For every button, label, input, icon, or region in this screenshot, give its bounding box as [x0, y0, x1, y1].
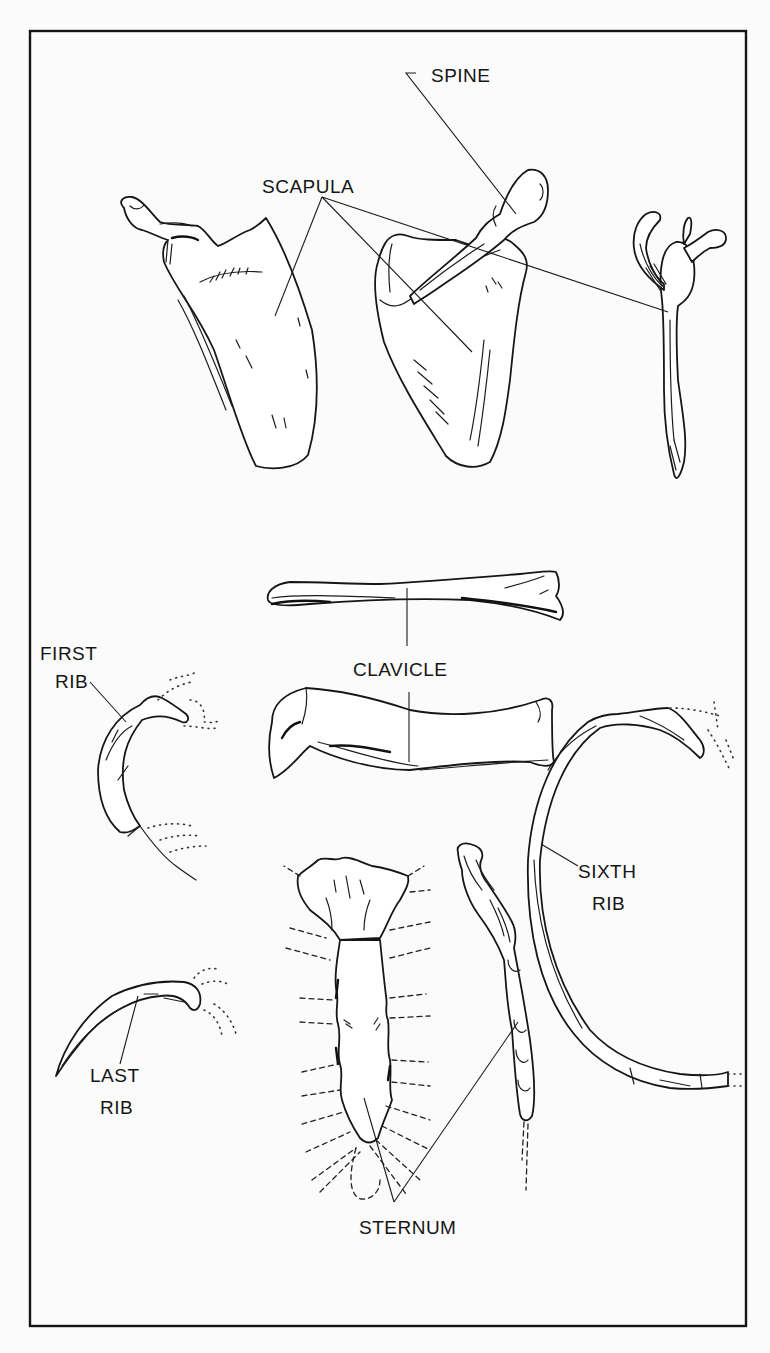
skeletal-anatomy-figure: SPINE SCAPULA CLAVICLE — [0, 0, 770, 1353]
sixth-rib-leader-line — [541, 844, 578, 866]
first-rib-label-group: FIRST RIB — [40, 643, 126, 722]
sternum-leader-line-lateral — [394, 1022, 518, 1202]
spine-leader-line — [406, 73, 516, 214]
scapula-dorsal-view — [121, 197, 317, 468]
last-rib — [56, 968, 236, 1076]
first-rib — [98, 672, 220, 880]
sixth-rib-label-line1: SIXTH — [578, 861, 636, 882]
sixth-rib — [528, 702, 744, 1089]
sixth-rib-label-group: SIXTH RIB — [541, 844, 636, 914]
sixth-rib-label-line2: RIB — [592, 893, 625, 914]
first-rib-leader-line — [90, 682, 126, 722]
scapula-label: SCAPULA — [262, 176, 354, 197]
sternum-ventral-view — [284, 858, 430, 1199]
first-rib-label-line1: FIRST — [40, 643, 97, 664]
scapula-lateral-view — [634, 212, 726, 478]
sternum-label: STERNUM — [359, 1217, 456, 1238]
clavicle-label: CLAVICLE — [353, 659, 447, 680]
last-rib-label-line1: LAST — [90, 1065, 140, 1086]
spine-label-group: SPINE — [406, 65, 516, 214]
last-rib-label-line2: RIB — [100, 1097, 133, 1118]
first-rib-label-line2: RIB — [55, 671, 88, 692]
scapula-ventral-view — [375, 170, 548, 467]
clavicle-top-view — [268, 571, 563, 620]
clavicle-front-view — [269, 688, 554, 778]
spine-label: SPINE — [431, 65, 491, 86]
sternum-lateral-view — [458, 843, 535, 1190]
